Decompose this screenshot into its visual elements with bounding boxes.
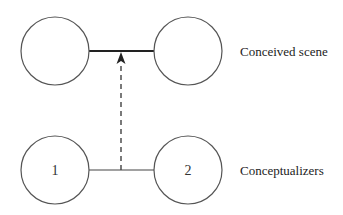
conceived-scene-label: Conceived scene — [240, 44, 328, 59]
conceptualizer-1-label: 1 — [52, 163, 59, 178]
diagram-canvas: 1 2 Conceived scene Conceptualizers — [0, 0, 343, 215]
arrowhead-icon — [117, 52, 126, 64]
scene-entity-left — [21, 17, 89, 85]
conceptualizers-label: Conceptualizers — [240, 163, 324, 178]
conceptualizer-2-label: 2 — [185, 163, 192, 178]
scene-entity-right — [154, 17, 222, 85]
